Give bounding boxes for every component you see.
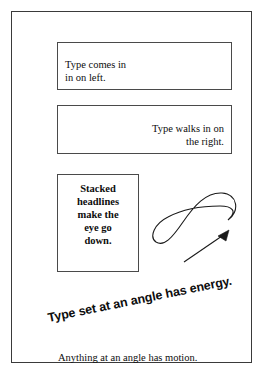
stacked-headlines-text: Stacked headlines make the eye go down. — [58, 182, 138, 247]
type-walks-in-right-text: Type walks in on the right. — [152, 123, 224, 148]
bottom-caption-text: Anything at an angle has motion. — [58, 351, 197, 364]
arrow-head — [218, 230, 229, 241]
stacked-headlines-box: Stacked headlines make the eye go down. — [57, 174, 139, 272]
type-comes-in-left-text: Type comes in in on left. — [65, 59, 126, 84]
angled-headline: Type set at an angle has energy. — [46, 268, 246, 327]
type-walks-in-right-box: Type walks in on the right. — [57, 105, 232, 154]
arrow-shaft — [184, 236, 222, 262]
figure-eight-loop-with-arrow-icon — [150, 184, 242, 266]
type-comes-in-left-box: Type comes in in on left. — [57, 42, 232, 90]
angled-headline-text: Type set at an angle has energy. — [47, 274, 233, 325]
page-frame: Type comes in in on left. Type walks in … — [11, 11, 252, 363]
